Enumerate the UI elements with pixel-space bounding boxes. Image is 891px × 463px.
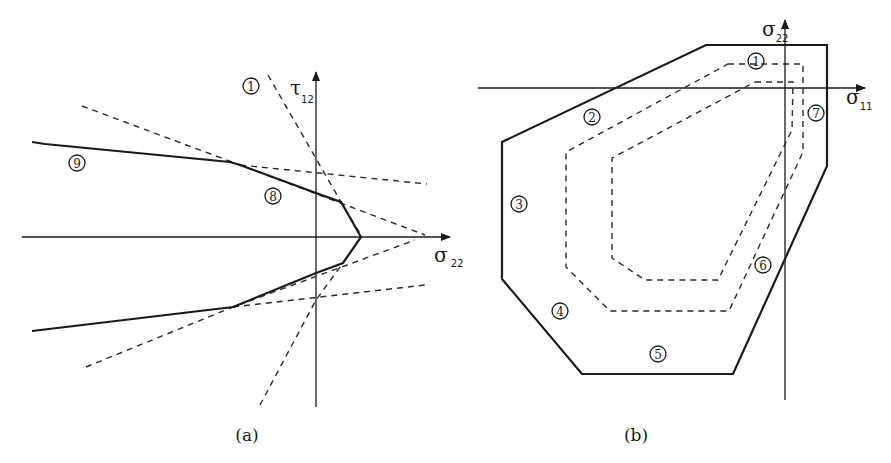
label-number: 8 [269,190,277,204]
sigma22-axis-label: σ22 [434,243,463,269]
middle-dashed-envelope [566,64,803,311]
mode-label-1: 1 [243,78,259,94]
mode-label-8: 8 [265,188,281,204]
dashed-criterion-lines [82,75,427,405]
mode-label-2: 2 [584,109,600,125]
mode-label-1: 1 [748,53,764,69]
label-number: 3 [515,198,523,212]
sigma11-axis-label: σ11 [846,85,872,112]
tau12-axis-label: τ12 [290,76,314,105]
label-number: 5 [654,348,662,362]
mode-label-4: 4 [552,303,568,319]
dashed-line-5 [86,240,415,367]
label-number: 2 [588,111,596,125]
mode-label-6: 6 [755,257,771,273]
mode-label-7: 7 [808,105,824,121]
figure-canvas: 189 τ12 σ22 (a) 1234567 σ22 σ11 (b) [0,0,891,463]
label-number: 4 [556,305,564,319]
outer-failure-envelope [502,45,827,374]
panel-a: 189 τ12 σ22 (a) [22,72,463,445]
label-number: 1 [247,80,255,94]
mode-label-9: 9 [69,155,85,171]
mode-label-3: 3 [511,196,527,212]
label-number: 9 [73,157,81,171]
panel-a-caption: (a) [235,425,258,445]
label-number: 6 [759,259,767,273]
dashed-line-2 [260,263,343,405]
label-number: 1 [752,55,760,69]
panel-b: 1234567 σ22 σ11 (b) [478,17,872,445]
label-number: 7 [812,107,820,121]
panel-b-caption: (b) [624,425,648,445]
mode-label-5: 5 [650,346,666,362]
failure-envelope-lower [32,237,361,331]
